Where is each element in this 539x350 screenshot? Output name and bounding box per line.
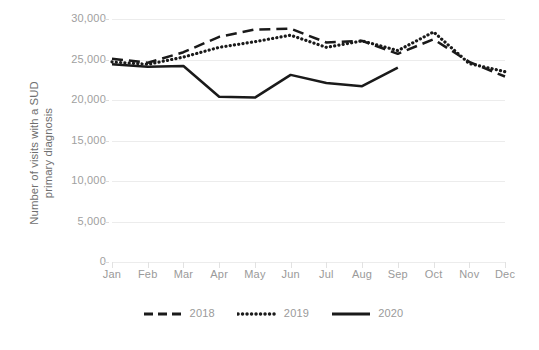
legend-item-2019[interactable]: 2019 (237, 307, 309, 319)
y-axis-title-line-1: Number of visits with a SUD (27, 81, 42, 224)
y-tick-label: 15,000 (54, 134, 106, 146)
plot-area (112, 19, 505, 262)
y-axis-ticks: 05,00010,00015,00020,00025,00030,000 (48, 19, 106, 262)
dotted-line-swatch (237, 308, 277, 319)
line-chart: Number of visits with a SUD primary diag… (0, 0, 539, 350)
legend-label-2020: 2020 (378, 307, 403, 319)
series-line-2020 (112, 64, 398, 97)
x-axis-labels: JanFebMarAprMayJunJulAugSepOctNovDec (112, 268, 505, 284)
legend-item-2020[interactable]: 2020 (331, 307, 403, 319)
y-tick-mark (104, 19, 109, 20)
y-tick-label: 10,000 (54, 174, 106, 186)
y-tick-label: 25,000 (54, 53, 106, 65)
dashed-line-swatch (143, 308, 183, 319)
solid-line-swatch (331, 308, 371, 319)
x-tick-label-jan: Jan (103, 268, 121, 280)
legend-item-2018[interactable]: 2018 (143, 307, 215, 319)
x-tick-label-nov: Nov (459, 268, 479, 280)
y-tick-mark (104, 262, 109, 263)
x-tick-label-sep: Sep (388, 268, 408, 280)
y-tick-label: 20,000 (54, 93, 106, 105)
x-tick-label-jul: Jul (319, 268, 334, 280)
x-tick-label-oct: Oct (425, 268, 443, 280)
x-tick-label-jun: Jun (281, 268, 299, 280)
series-layer (112, 19, 505, 262)
x-tick-label-dec: Dec (495, 268, 515, 280)
y-tick-label: 30,000 (54, 12, 106, 24)
y-tick-mark (104, 60, 109, 61)
y-tick-mark (104, 141, 109, 142)
x-tick-label-may: May (244, 268, 265, 280)
series-line-2018 (112, 29, 505, 77)
y-tick-label: 5,000 (54, 215, 106, 227)
y-tick-mark (104, 222, 109, 223)
legend-label-2019: 2019 (284, 307, 309, 319)
x-tick-label-aug: Aug (352, 268, 372, 280)
legend-label-2018: 2018 (190, 307, 215, 319)
y-tick-label: 0 (54, 255, 106, 267)
x-tick-label-apr: Apr (210, 268, 228, 280)
x-tick-label-mar: Mar (174, 268, 194, 280)
y-tick-mark (104, 100, 109, 101)
y-tick-mark (104, 181, 109, 182)
chart-legend: 201820192020 (150, 299, 396, 327)
x-tick-label-feb: Feb (138, 268, 158, 280)
